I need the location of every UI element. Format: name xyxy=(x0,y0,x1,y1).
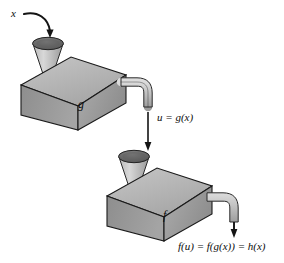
machine-label-g: g xyxy=(78,98,84,110)
machine-label-f: f xyxy=(163,209,166,221)
machine-g xyxy=(21,13,152,151)
input-label-x: x xyxy=(11,8,16,19)
diagram-canvas xyxy=(0,0,284,263)
function-machine-diagram: x g u = g(x) f f(u) = f(g(x)) = h(x) xyxy=(0,0,284,263)
machine-f xyxy=(107,150,238,241)
intermediate-label-u-equals-g-of-x: u = g(x) xyxy=(157,112,193,123)
down-arrow-icon xyxy=(231,222,238,238)
curved-arrow-icon xyxy=(24,13,54,38)
output-label-composition: f(u) = f(g(x)) = h(x) xyxy=(178,241,266,252)
down-arrow-icon xyxy=(145,112,152,151)
